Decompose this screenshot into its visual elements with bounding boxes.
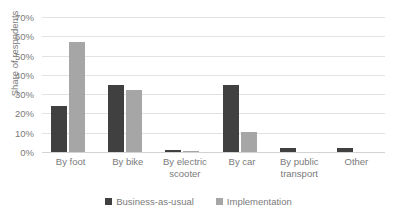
bar bbox=[280, 148, 296, 152]
x-axis-labels: By footBy bikeBy electric scooterBy carB… bbox=[42, 156, 385, 190]
bar bbox=[223, 85, 239, 153]
y-tick-label: 10% bbox=[0, 128, 34, 138]
bar bbox=[241, 132, 257, 152]
y-axis-ticks: 70%60%50%40%30%20%10%0% bbox=[0, 17, 38, 152]
bar-group bbox=[328, 17, 385, 152]
x-axis-label: Other bbox=[320, 156, 392, 168]
bar bbox=[108, 85, 124, 153]
legend-item[interactable]: Business-as-usual bbox=[105, 196, 194, 207]
bar bbox=[126, 90, 142, 152]
bar bbox=[183, 151, 199, 153]
y-tick-label: 30% bbox=[0, 90, 34, 100]
bar bbox=[51, 106, 67, 152]
plot-area bbox=[42, 17, 385, 152]
bar-group bbox=[156, 17, 213, 152]
legend-label: Business-as-usual bbox=[116, 196, 194, 207]
y-tick-label: 20% bbox=[0, 109, 34, 119]
legend-swatch-icon bbox=[216, 198, 223, 205]
y-tick-label: 60% bbox=[0, 32, 34, 42]
bar bbox=[69, 42, 85, 152]
axis-baseline bbox=[42, 152, 385, 153]
bar-chart: Share of respndents 70%60%50%40%30%20%10… bbox=[0, 0, 397, 223]
bar-group bbox=[271, 17, 328, 152]
y-tick-label: 70% bbox=[0, 13, 34, 23]
bar bbox=[165, 150, 181, 152]
y-tick-label: 40% bbox=[0, 70, 34, 80]
bar bbox=[337, 148, 353, 152]
y-tick-label: 50% bbox=[0, 51, 34, 61]
legend-swatch-icon bbox=[105, 198, 112, 205]
legend-label: Implementation bbox=[227, 196, 292, 207]
bar-group bbox=[214, 17, 271, 152]
bar-group bbox=[99, 17, 156, 152]
legend-item[interactable]: Implementation bbox=[216, 196, 292, 207]
y-tick-label: 0% bbox=[0, 148, 34, 158]
chart-legend: Business-as-usualImplementation bbox=[0, 196, 397, 207]
bar-group bbox=[42, 17, 99, 152]
